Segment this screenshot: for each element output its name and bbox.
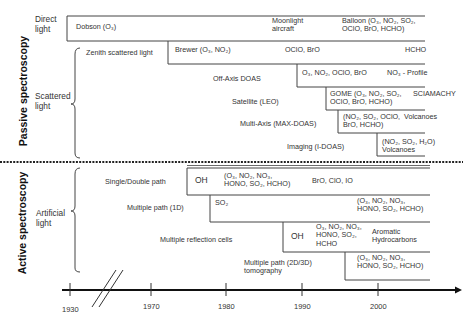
aromatic-label: Aromatic Hydrocarbons [372,228,417,245]
offaxis-label: Off-Axis DOAS [213,75,261,83]
offaxis-species-label: O₃, NO₂, OClO, BrO [302,69,367,77]
moonlight-aircraft-label: Moonlight aircraft [272,17,303,34]
satellite-label: Satellite (LEO) [232,98,279,106]
sciamachy-label: SCIAMACHY [413,90,456,98]
dobson-label: Dobson (O₃) [76,23,116,31]
single-halogens-label: BrO, ClO, IO [312,177,353,185]
imaging-species-label: (NO₂, SO₂, H₂O) Volcanoes [382,138,435,155]
multipath-1d-species-label: (O₃, NO₂, NO₃, HONO, SO₂, HCHO) [357,197,423,214]
multipath-1d-so2-label: SO₂ [215,199,228,207]
zenith-hcho-label: HCHO [405,46,426,54]
single-oh-label: OH [195,176,208,184]
maxdoas-label: Multi-Axis (MAX-DOAS) [240,120,316,128]
cells-oh-label: OH [291,232,304,240]
tomography-label: Multiple path (2D/3D) tomography [244,259,312,276]
artificial-light-label: Artificial light [36,209,65,228]
passive-spectroscopy-label: Passive spectroscopy [17,26,29,156]
single-path-label: Single/Double path [105,178,166,186]
active-spectroscopy-label: Active spectroscopy [16,161,28,285]
tick-2000: 2000 [370,302,387,311]
offaxis-profile-label: NO₃ - Profile [387,69,427,77]
tick-1990: 1990 [294,302,311,311]
direct-light-label: Direct light [35,15,57,34]
zenith-species-label: OClO, BrO [285,46,320,54]
maxdoas-species-label: (NO₂, SO₂, OClO, BrO, HCHO) [343,113,400,130]
cells-species-label: O₃, NO₂, NO₃, HONO, SO₂, HCHO [316,223,362,248]
imaging-label: Imaging (I-DOAS) [287,143,344,151]
tick-1980: 1980 [218,302,235,311]
brewer-label: Brewer (O₃, NO₂) [175,46,231,54]
scattered-light-label: Scattered light [35,92,71,111]
single-species-label: (O₃, NO₂, NO₃, HONO, SO₂, HCHO) [224,172,290,189]
zenith-label: Zenith scattered light [86,49,153,57]
reflection-cells-label: Multiple reflection cells [160,236,232,244]
tick-1970: 1970 [143,302,160,311]
balloon-label: Balloon (O₃, NO₂, SO₂, OClO, BrO, HCHO) [342,17,416,34]
diagram-lines [0,0,463,323]
multipath-1d-label: Multiple path (1D) [127,204,184,212]
gome-label: GOME (O₃, NO₂, SO₂, OClO, BrO, HCHO) [330,90,402,107]
tomography-species-label: (O₃, NO₂, NO₃, HONO, SO₂, HCHO) [357,254,423,271]
tick-1930: 1930 [62,305,79,314]
maxdoas-volcanoes-label: Volcanoes [404,113,437,121]
